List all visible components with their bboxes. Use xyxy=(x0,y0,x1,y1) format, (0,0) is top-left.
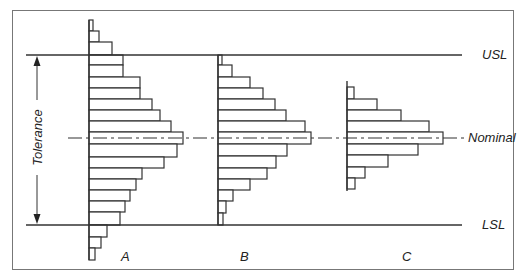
histogram-bar xyxy=(347,144,418,155)
histogram-bar xyxy=(347,87,354,99)
histogram-c-label: C xyxy=(402,250,411,263)
histogram-bar xyxy=(89,237,101,248)
histogram-b xyxy=(218,55,311,225)
arrow-up-icon xyxy=(34,56,41,66)
histogram-bar xyxy=(218,88,263,99)
histogram-bar xyxy=(218,99,275,110)
histogram-bar xyxy=(89,212,120,225)
diagram-canvas xyxy=(0,0,528,278)
histogram-bar xyxy=(218,144,287,156)
histogram-bar xyxy=(347,167,365,178)
nominal-label: Nominal xyxy=(468,131,516,144)
histogram-bar xyxy=(89,110,160,121)
histogram-bar xyxy=(347,155,388,167)
histogram-bar xyxy=(218,77,250,88)
histograms xyxy=(89,20,443,260)
histogram-bar xyxy=(89,157,164,168)
histogram-bar xyxy=(218,190,233,201)
arrow-down-icon xyxy=(34,214,41,224)
histogram-bar xyxy=(89,248,95,260)
histogram-bar xyxy=(218,156,276,168)
histogram-bar xyxy=(347,110,401,121)
histogram-b-label: B xyxy=(240,250,249,263)
histogram-bar xyxy=(218,213,223,225)
histogram-bar xyxy=(89,225,107,237)
histogram-a-label: A xyxy=(121,250,130,263)
histogram-c xyxy=(347,81,443,191)
histogram-bar xyxy=(347,99,377,110)
histogram-bar xyxy=(89,179,136,190)
histogram-bar xyxy=(89,168,142,179)
histogram-bar xyxy=(218,168,267,179)
histogram-bar xyxy=(89,65,123,77)
histogram-bar xyxy=(89,77,140,88)
histogram-bar xyxy=(218,179,250,190)
histogram-bar xyxy=(89,55,123,65)
histogram-bar xyxy=(89,31,99,42)
tolerance-label: Tolerance xyxy=(30,107,45,169)
histogram-bar xyxy=(89,144,177,157)
lsl-label: LSL xyxy=(482,218,505,231)
histogram-bar xyxy=(347,178,355,189)
histogram-bar xyxy=(89,201,125,212)
histogram-bar xyxy=(218,65,232,77)
histogram-bar xyxy=(218,121,305,132)
histogram-bar xyxy=(89,190,130,201)
histogram-bar xyxy=(89,42,112,55)
histogram-a xyxy=(89,20,183,260)
histogram-bar xyxy=(89,88,140,99)
histogram-bar xyxy=(347,121,429,132)
histogram-bar xyxy=(218,201,226,213)
histogram-bar xyxy=(89,99,152,110)
histogram-bar xyxy=(89,121,171,132)
usl-label: USL xyxy=(482,48,507,61)
histogram-bar xyxy=(218,110,286,121)
